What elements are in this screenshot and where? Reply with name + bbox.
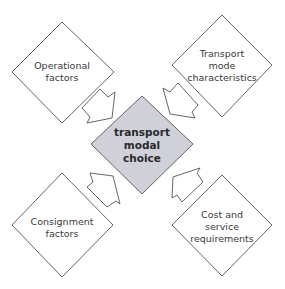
label-line: modal [114, 139, 170, 152]
label-line: mode [187, 60, 257, 72]
transport-modal-choice-diagram: Operational factors Transport mode chara… [0, 0, 285, 289]
label-line: characteristics [187, 72, 257, 84]
label-line: Consignment [31, 216, 94, 228]
label-line: factors [31, 228, 94, 240]
arrow-icon-cost-service-to-center [172, 168, 203, 202]
transport-mode-characteristics-label: Transport mode characteristics [187, 48, 257, 84]
arrow-icon-consignment-to-center [87, 173, 120, 207]
label-line: factors [34, 72, 90, 84]
label-line: Transport [187, 48, 257, 60]
label-line: Operational [34, 60, 90, 72]
transport-modal-choice-label: transport modal choice [114, 126, 170, 165]
cost-service-requirements-label: Cost and service requirements [190, 209, 254, 245]
consignment-factors-label: Consignment factors [31, 216, 94, 240]
label-line: transport [114, 126, 170, 139]
label-line: choice [114, 152, 170, 165]
label-line: Cost and [190, 209, 254, 221]
label-line: service [190, 221, 254, 233]
arrow-icon-transport-mode-to-center [163, 83, 198, 118]
label-line: requirements [190, 233, 254, 245]
operational-factors-label: Operational factors [34, 60, 90, 84]
